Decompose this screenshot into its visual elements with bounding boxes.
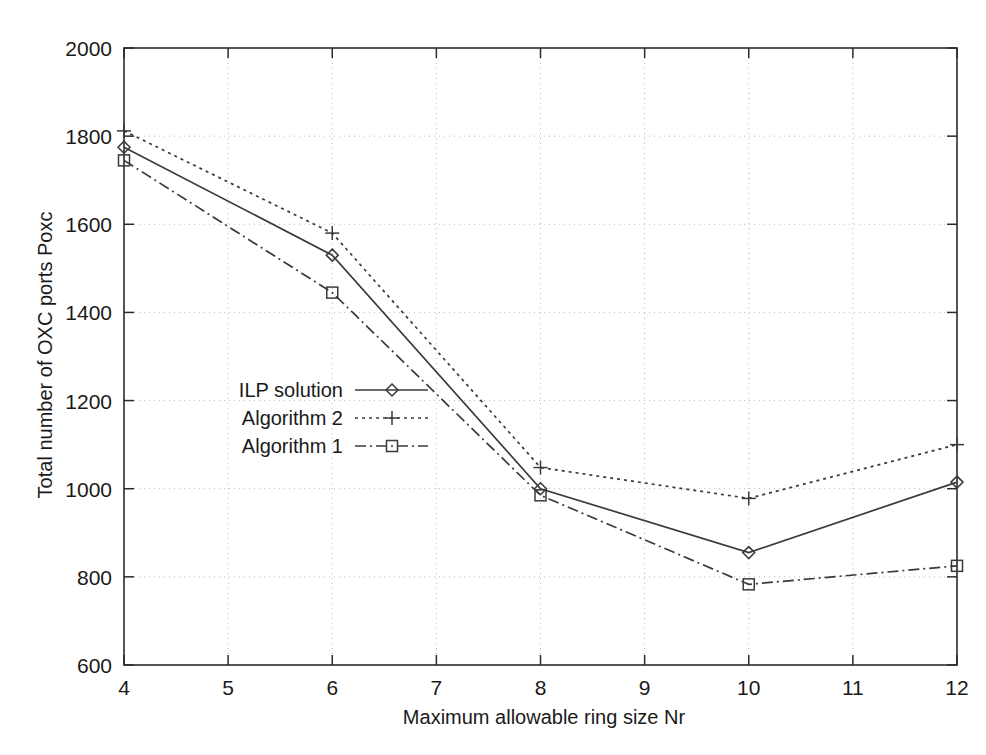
- y-tick-label: 1000: [65, 478, 112, 501]
- x-tick-label: 9: [639, 676, 651, 699]
- x-tick-label: 7: [431, 676, 443, 699]
- y-tick-label: 1800: [65, 125, 112, 148]
- axis-tick-labels: 6008001000120014001600180020004567891011…: [65, 37, 968, 699]
- legend-entry: Algorithm 1: [242, 435, 428, 457]
- x-tick-label: 11: [842, 676, 864, 699]
- y-axis-title: Total number of OXC ports Poxc: [34, 212, 56, 499]
- x-tick-label: 4: [118, 676, 130, 699]
- plot-frame: [124, 48, 957, 665]
- legend-entry: ILP solution: [239, 379, 428, 401]
- y-tick-label: 800: [77, 566, 112, 589]
- series-group: [119, 155, 963, 590]
- y-tick-label: 1200: [65, 390, 112, 413]
- line-chart: 6008001000120014001600180020004567891011…: [0, 0, 986, 755]
- legend-label: ILP solution: [239, 379, 343, 401]
- x-axis-title: Maximum allowable ring size Nr: [403, 706, 686, 728]
- axes: [124, 48, 957, 665]
- chart-figure: 6008001000120014001600180020004567891011…: [0, 0, 986, 755]
- x-tick-label: 10: [737, 676, 760, 699]
- axis-ticks: [124, 48, 957, 665]
- gridlines: [124, 48, 957, 665]
- legend-entry: Algorithm 2: [242, 407, 428, 429]
- x-tick-label: 8: [535, 676, 547, 699]
- x-tick-label: 6: [326, 676, 338, 699]
- legend-label: Algorithm 1: [242, 435, 343, 457]
- y-tick-label: 2000: [65, 37, 112, 60]
- x-tick-label: 12: [945, 676, 968, 699]
- series-line-1: [124, 147, 957, 552]
- y-tick-label: 1600: [65, 213, 112, 236]
- x-tick-label: 5: [222, 676, 234, 699]
- chart-legend: ILP solutionAlgorithm 2Algorithm 1: [239, 379, 428, 457]
- legend-label: Algorithm 2: [242, 407, 343, 429]
- y-tick-label: 1400: [65, 301, 112, 324]
- y-tick-label: 600: [77, 654, 112, 677]
